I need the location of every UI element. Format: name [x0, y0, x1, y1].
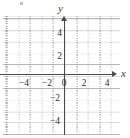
x-tick-label-1: −2: [39, 79, 55, 89]
x-axis-line: [0, 74, 114, 75]
y-tick-label-0: 4: [46, 29, 62, 39]
y-tick-label-1: 2: [46, 52, 62, 62]
x-tick-label-0: −4: [16, 79, 32, 89]
y-axis-line: [64, 19, 66, 135]
x-tick-label-2: 0: [56, 79, 72, 89]
x-tick-label-3: 2: [76, 79, 92, 89]
y-tick-label-3: −4: [44, 117, 60, 127]
scan-artifact-speck: [20, 2, 23, 5]
x-tick-label-4: 4: [99, 79, 115, 89]
y-tick-label-2: −2: [44, 94, 60, 104]
x-axis-arrow-icon: [112, 71, 117, 77]
y-axis-label: y: [58, 3, 63, 14]
x-axis-label: x: [121, 68, 126, 79]
y-axis-arrow-icon: [61, 16, 67, 21]
coordinate-grid-figure: x y −4−2024 42−2−4: [0, 0, 130, 138]
